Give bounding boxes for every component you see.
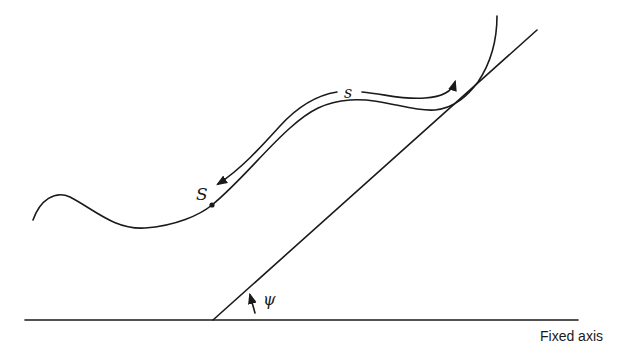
arc-length-label: s xyxy=(344,83,352,102)
tangent-line xyxy=(213,30,537,320)
plane-curve xyxy=(33,16,497,228)
point-s-marker xyxy=(209,202,214,207)
intrinsic-coordinates-diagram: s S ψ Fixed axis xyxy=(0,0,642,355)
fixed-axis-label: Fixed axis xyxy=(540,328,603,344)
arc-length-arrow-right xyxy=(362,82,455,98)
point-s-label: S xyxy=(196,184,208,204)
angle-psi-label: ψ xyxy=(263,290,276,309)
arc-length-arrow-left xyxy=(218,92,337,184)
angle-arrow-icon xyxy=(250,295,255,313)
